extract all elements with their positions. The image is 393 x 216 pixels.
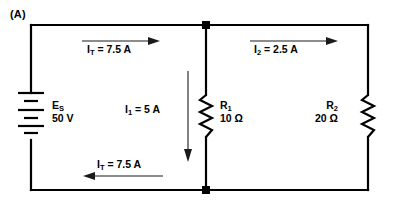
current-branch-1-value: = 5 A (135, 103, 160, 115)
current-label-total-top: IT = 7.5 A (87, 44, 131, 57)
circuit-diagram: (A) IT = 7.5 A I2 = 2.5 A I1 = 5 A IT = … (0, 0, 393, 216)
resistor-r2-label: R2 20 Ω (315, 100, 338, 125)
current-arrow-branch-1 (184, 71, 192, 162)
current-arrow-total-bottom (83, 172, 163, 180)
resistor-r2-value: 20 Ω (315, 113, 338, 125)
resistor-r1-label: R1 10 Ω (220, 100, 243, 125)
resistor-r2-symbol-text: R (326, 99, 334, 111)
resistor-r1-value: 10 Ω (220, 113, 243, 125)
current-label-branch-1: I1 = 5 A (125, 104, 160, 117)
resistor-r2-symbol (362, 95, 374, 137)
resistor-r1-symbol (200, 95, 212, 137)
current-total-bottom-subscript: T (100, 163, 105, 172)
junction-node-top (202, 21, 210, 29)
battery-symbol (18, 93, 44, 133)
current-label-branch-2: I2 = 2.5 A (254, 44, 298, 57)
current-total-bottom-value: = 7.5 A (107, 158, 141, 170)
current-total-top-subscript: T (90, 48, 95, 57)
voltage-source-symbol: E (52, 99, 59, 111)
junction-node-bottom (202, 186, 210, 194)
current-branch-1-subscript: 1 (128, 108, 132, 117)
current-total-top-value: = 7.5 A (97, 43, 131, 55)
resistor-r1-symbol-text: R (220, 99, 228, 111)
current-branch-2-value: = 2.5 A (264, 43, 298, 55)
voltage-source-value: 50 V (52, 113, 74, 125)
panel-label: (A) (10, 8, 26, 20)
current-branch-2-subscript: 2 (257, 48, 261, 57)
current-label-total-bottom: IT = 7.5 A (97, 159, 141, 172)
voltage-source-label: ES 50 V (52, 100, 74, 125)
